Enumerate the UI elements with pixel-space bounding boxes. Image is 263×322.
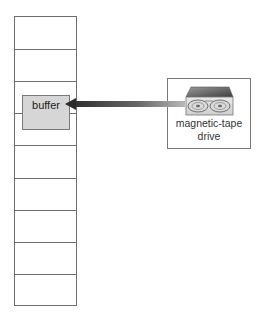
data-transfer-arrow (65, 98, 185, 110)
diagram-overlay (0, 0, 263, 322)
magnetic-tape-drive-icon (186, 87, 233, 115)
